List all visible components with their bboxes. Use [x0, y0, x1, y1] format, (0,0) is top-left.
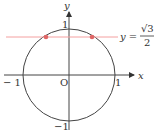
- equation-numerator: √3: [141, 23, 154, 34]
- tick-y-pos-1: 1: [62, 19, 68, 30]
- tick-y-neg-1: −1: [54, 121, 69, 132]
- tick-x-neg-1: − 1: [3, 77, 21, 88]
- equation-denominator: 2: [144, 37, 150, 48]
- intersection-point-left: [44, 35, 49, 40]
- equation-lhs: y =: [119, 31, 137, 42]
- y-axis-label: y: [63, 0, 70, 11]
- origin-label: O: [60, 77, 68, 88]
- x-axis-label: x: [138, 70, 144, 81]
- tick-x-pos-1: 1: [115, 77, 121, 88]
- unit-circle-diagram: y x O − 1 1 1 −1 y = √3 2: [0, 0, 156, 136]
- intersection-point-right: [90, 35, 95, 40]
